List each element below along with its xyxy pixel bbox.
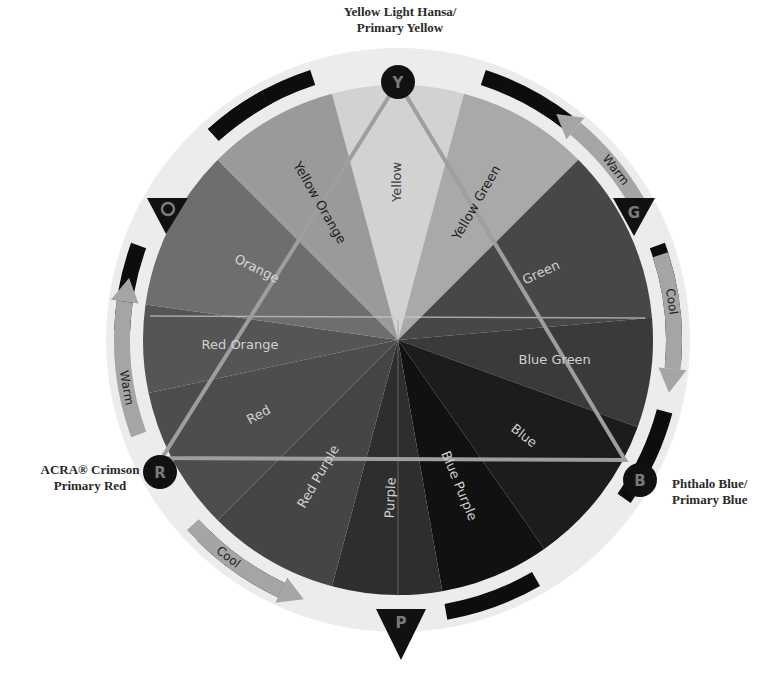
segment-label-red-orange: Red Orange — [202, 337, 279, 352]
segment-label-blue-green: Blue Green — [519, 352, 591, 367]
marker-yellow: Y — [381, 65, 415, 99]
caption-red-line1: ACRA® Crimson — [30, 462, 150, 478]
caption-blue-line1: Phthalo Blue/ — [672, 476, 748, 492]
marker-yellow-letter: Y — [392, 74, 405, 92]
caption-blue-line2: Primary Blue — [672, 492, 748, 508]
marker-purple-letter: P — [396, 614, 407, 632]
marker-blue-letter: B — [634, 472, 645, 490]
caption-red-line2: Primary Red — [30, 478, 150, 494]
caption-primary-blue: Phthalo Blue/ Primary Blue — [672, 476, 748, 508]
marker-blue: B — [623, 463, 657, 497]
caption-primary-yellow: Yellow Light Hansa/ Primary Yellow — [310, 4, 490, 36]
marker-purple: P — [376, 609, 426, 660]
marker-red-letter: R — [154, 464, 166, 482]
segment-label-purple: Purple — [382, 477, 399, 519]
segment-label-yellow: Yellow — [390, 162, 405, 203]
color-wheel: YellowYellow GreenGreenBlue GreenBlueBlu… — [0, 0, 772, 674]
caption-yellow-line2: Primary Yellow — [310, 20, 490, 36]
marker-green-letter: G — [628, 204, 640, 222]
caption-yellow-line1: Yellow Light Hansa/ — [310, 4, 490, 20]
caption-primary-red: ACRA® Crimson Primary Red — [30, 462, 150, 494]
